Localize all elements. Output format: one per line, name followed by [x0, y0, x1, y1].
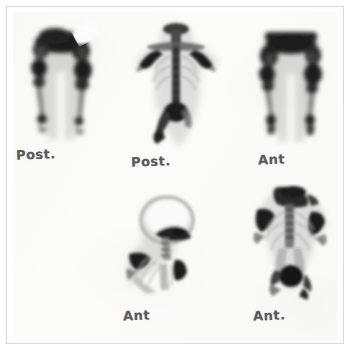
scan-label-top-right: Ant: [258, 152, 286, 168]
scan-panel-top-right[interactable]: [245, 22, 337, 146]
scan-label-top-left: Post.: [16, 146, 56, 162]
scintigram-head-upper-chest-anterior: [113, 194, 218, 304]
film-sheet: Post.: [0, 0, 352, 352]
scintigram-lower-extremities-posterior: [15, 20, 107, 144]
scintigram-torso-posterior: [121, 16, 231, 152]
scan-label-top-center: Post.: [131, 153, 171, 169]
scan-panel-bottom-center[interactable]: [113, 194, 218, 304]
film-plate: Post.: [13, 12, 338, 340]
scintigram-torso-anterior: [241, 184, 338, 302]
scan-panel-bottom-right[interactable]: [241, 184, 338, 302]
scan-panel-top-center[interactable]: [121, 16, 231, 152]
scintigram-lower-extremities-anterior: [245, 22, 337, 146]
scan-label-bottom-center: Ant: [123, 308, 151, 324]
scan-panel-top-left[interactable]: [15, 20, 107, 144]
scan-label-bottom-right: Ant.: [253, 307, 286, 323]
